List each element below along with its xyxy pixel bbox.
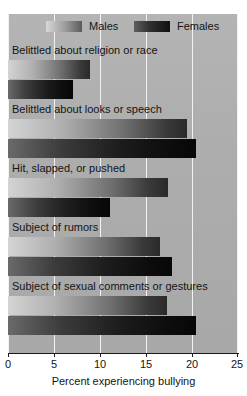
x-tick (237, 353, 238, 357)
category-group: Hit, slapped, or pushed (8, 162, 238, 223)
x-tick-label: 0 (5, 358, 11, 370)
legend-item-females: Females (134, 20, 219, 32)
bar-males (8, 119, 187, 138)
category-label: Subject of rumors (12, 221, 98, 234)
legend-label-females: Females (177, 20, 219, 32)
category-label: Belittled about looks or speech (12, 103, 162, 116)
x-tick (100, 353, 101, 357)
bar-males (8, 237, 160, 256)
bar-females (8, 257, 172, 276)
category-label: Belittled about religion or race (12, 44, 158, 57)
category-group: Belittled about religion or race (8, 44, 238, 105)
bar-females (8, 80, 73, 99)
bar-males (8, 178, 168, 197)
legend-item-males: Males (46, 20, 118, 32)
plot-area: Males Females Belittled about religion o… (8, 14, 238, 353)
x-tick-label: 25 (231, 358, 243, 370)
bar-females (8, 316, 196, 335)
category-group: Subject of sexual comments or gestures (8, 280, 238, 341)
category-label: Subject of sexual comments or gestures (12, 280, 208, 293)
bar-females (8, 198, 110, 217)
bar-males (8, 296, 167, 315)
legend-label-males: Males (89, 20, 118, 32)
bar-chart: Males Females Belittled about religion o… (0, 0, 247, 396)
category-group: Subject of rumors (8, 221, 238, 282)
legend-swatch-females-icon (134, 21, 170, 32)
x-tick-label: 15 (140, 358, 152, 370)
legend-swatch-males-icon (46, 21, 82, 32)
legend: Males Females (8, 14, 238, 44)
category-label: Hit, slapped, or pushed (12, 162, 125, 175)
x-tick-label: 5 (51, 358, 57, 370)
x-axis-line (8, 353, 239, 354)
x-axis-label: Percent experiencing bullying (0, 375, 247, 387)
category-group: Belittled about looks or speech (8, 103, 238, 164)
x-tick-label: 20 (186, 358, 198, 370)
x-tick (192, 353, 193, 357)
x-tick (54, 353, 55, 357)
bar-males (8, 60, 90, 79)
x-tick (146, 353, 147, 357)
x-tick-label: 10 (94, 358, 106, 370)
bar-females (8, 139, 196, 158)
x-tick (8, 353, 9, 357)
